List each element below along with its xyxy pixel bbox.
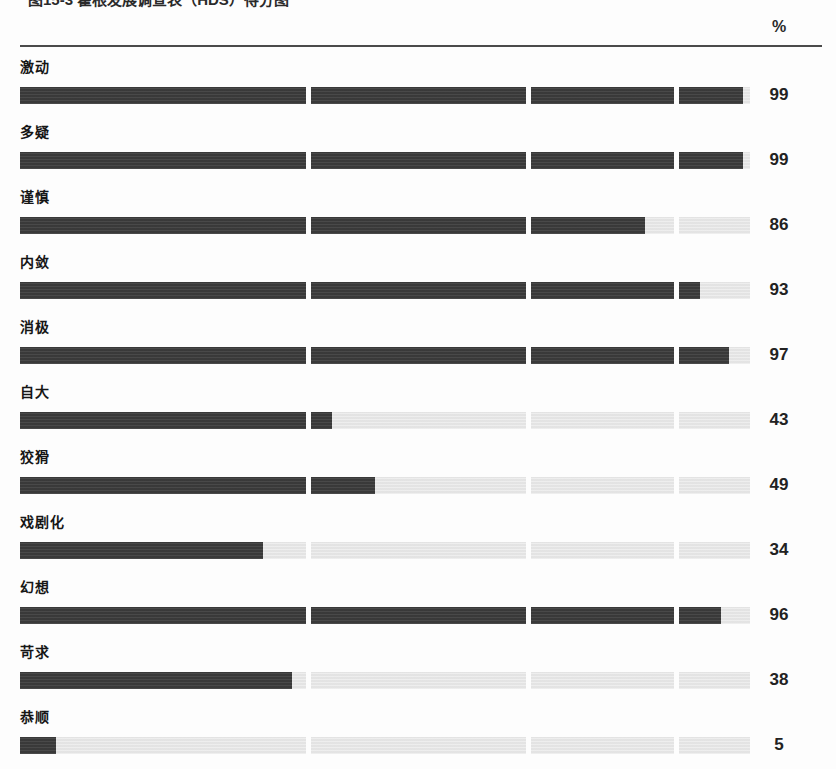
score-bar — [20, 672, 750, 689]
bar-segment-zone-90-100 — [679, 542, 751, 559]
score-value: 5 — [750, 735, 808, 755]
bar-fill — [531, 282, 674, 299]
bar-fill — [531, 217, 645, 234]
bar-line: 97 — [20, 345, 822, 365]
trait-row: 消极 97 — [20, 319, 822, 365]
bar-segment-zone-40-70 — [311, 412, 526, 429]
trait-row: 多疑 99 — [20, 124, 822, 170]
score-bar — [20, 87, 750, 104]
bar-fill — [20, 87, 306, 104]
score-bar — [20, 217, 750, 234]
bar-segment-zone-70-90 — [531, 152, 674, 169]
bar-segment-zone-70-90 — [531, 87, 674, 104]
score-bar — [20, 542, 750, 559]
bar-segment-zone-90-100 — [679, 412, 751, 429]
trait-label: 自大 — [20, 384, 822, 401]
trait-row: 狡猾 49 — [20, 449, 822, 495]
trait-label: 内敛 — [20, 254, 822, 271]
bar-segment-zone-90-100 — [679, 477, 751, 494]
score-value: 99 — [750, 85, 808, 105]
bar-segment-zone-70-90 — [531, 737, 674, 754]
bar-fill — [311, 282, 526, 299]
bar-fill — [679, 607, 722, 624]
score-value: 99 — [750, 150, 808, 170]
bar-segment-zone-40-70 — [311, 542, 526, 559]
trait-row: 恭顺 5 — [20, 709, 822, 755]
bar-line: 99 — [20, 85, 822, 105]
trait-row: 幻想 96 — [20, 579, 822, 625]
bar-segment-zone-90-100 — [679, 672, 751, 689]
bar-segment-zone-90-100 — [679, 607, 751, 624]
bar-segment-zone-70-90 — [531, 412, 674, 429]
bar-line: 38 — [20, 670, 822, 690]
bar-segment-zone-40-70 — [311, 217, 526, 234]
bar-segment-zone-90-100 — [679, 217, 751, 234]
trait-label: 狡猾 — [20, 449, 822, 466]
score-bar — [20, 152, 750, 169]
bar-fill — [679, 152, 743, 169]
bar-segment-zone-70-90 — [531, 672, 674, 689]
bar-fill — [20, 542, 263, 559]
score-value: 38 — [750, 670, 808, 690]
bar-fill — [20, 737, 56, 754]
bar-segment-zone-0-40 — [20, 477, 306, 494]
bar-line: 34 — [20, 540, 822, 560]
bar-fill — [20, 217, 306, 234]
bar-segment-zone-90-100 — [679, 347, 751, 364]
trait-label: 幻想 — [20, 579, 822, 596]
bar-fill — [311, 347, 526, 364]
score-value: 43 — [750, 410, 808, 430]
trait-label: 谨慎 — [20, 189, 822, 206]
bar-segment-zone-0-40 — [20, 217, 306, 234]
bar-fill — [311, 217, 526, 234]
score-bar — [20, 347, 750, 364]
score-bar — [20, 607, 750, 624]
clipped-title: 图15-3 霍根发展调查表（HDS）得分图 — [28, 0, 822, 10]
bar-segment-zone-70-90 — [531, 347, 674, 364]
bar-segment-zone-0-40 — [20, 542, 306, 559]
trait-label: 恭顺 — [20, 709, 822, 726]
trait-row: 激动 99 — [20, 59, 822, 105]
bar-line: 96 — [20, 605, 822, 625]
bar-line: 86 — [20, 215, 822, 235]
bar-fill — [311, 607, 526, 624]
bar-segment-zone-40-70 — [311, 737, 526, 754]
bar-segment-zone-0-40 — [20, 672, 306, 689]
bar-segment-zone-0-40 — [20, 282, 306, 299]
bar-segment-zone-0-40 — [20, 87, 306, 104]
bar-segment-zone-40-70 — [311, 672, 526, 689]
trait-label: 戏剧化 — [20, 514, 822, 531]
bar-fill — [20, 672, 292, 689]
bar-segment-zone-40-70 — [311, 347, 526, 364]
header-divider — [20, 45, 822, 47]
bar-segment-zone-70-90 — [531, 542, 674, 559]
trait-rows: 激动 99 多疑 99 谨慎 86 内敛 93 — [20, 59, 822, 755]
bar-segment-zone-0-40 — [20, 347, 306, 364]
score-value: 96 — [750, 605, 808, 625]
score-value: 49 — [750, 475, 808, 495]
trait-label: 消极 — [20, 319, 822, 336]
bar-fill — [679, 87, 743, 104]
bar-line: 99 — [20, 150, 822, 170]
bar-fill — [20, 607, 306, 624]
bar-segment-zone-70-90 — [531, 217, 674, 234]
bar-fill — [20, 477, 306, 494]
bar-segment-zone-0-40 — [20, 607, 306, 624]
trait-row: 自大 43 — [20, 384, 822, 430]
bar-segment-zone-40-70 — [311, 607, 526, 624]
clipped-title-text: 图15-3 霍根发展调查表（HDS）得分图 — [28, 0, 822, 9]
bar-fill — [311, 477, 375, 494]
bar-segment-zone-0-40 — [20, 412, 306, 429]
bar-segment-zone-0-40 — [20, 737, 306, 754]
bar-fill — [679, 347, 729, 364]
bar-segment-zone-70-90 — [531, 282, 674, 299]
bar-segment-zone-70-90 — [531, 477, 674, 494]
bar-fill — [311, 152, 526, 169]
score-bar — [20, 737, 750, 754]
trait-row: 戏剧化 34 — [20, 514, 822, 560]
score-value: 97 — [750, 345, 808, 365]
trait-row: 谨慎 86 — [20, 189, 822, 235]
bar-line: 93 — [20, 280, 822, 300]
trait-label: 激动 — [20, 59, 822, 76]
bar-segment-zone-90-100 — [679, 737, 751, 754]
